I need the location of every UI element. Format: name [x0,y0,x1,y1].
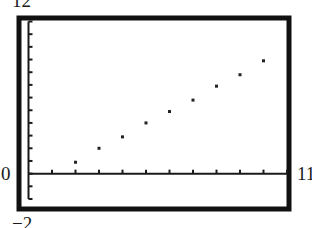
data-point [168,110,171,113]
axes [29,22,288,200]
screen-frame [19,18,289,209]
data-point [74,161,77,164]
data-point [121,135,124,138]
data-points [74,59,265,163]
data-point [98,147,101,150]
graph-screen [0,0,312,228]
data-point [145,121,148,124]
data-point [192,99,195,102]
data-point [215,85,218,88]
data-point [262,59,265,62]
data-point [239,73,242,76]
